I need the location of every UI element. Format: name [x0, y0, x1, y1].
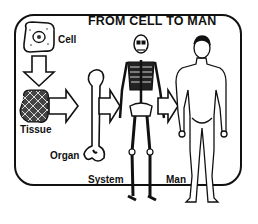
arrow-right-icon: [99, 90, 120, 122]
stage-label-cell: Cell: [58, 34, 76, 45]
stage-label-man: Man: [166, 174, 186, 185]
illustration: [0, 0, 258, 224]
stage-label-system: System: [88, 174, 124, 185]
cell-icon: [24, 22, 54, 52]
stage-label-organ: Organ: [50, 150, 79, 161]
skeleton-icon: [120, 35, 164, 200]
arrow-right-icon: [49, 90, 78, 122]
stage-label-tissue: Tissue: [20, 124, 52, 135]
bone-icon: [84, 70, 104, 161]
arrow-down-icon: [24, 56, 54, 86]
tissue-icon: [20, 90, 49, 122]
